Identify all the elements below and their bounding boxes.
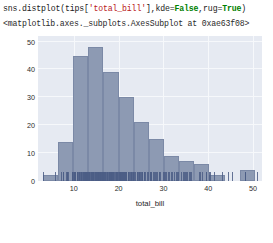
x-tick-label: 50: [249, 184, 257, 193]
x-tick-label: 20: [115, 184, 123, 193]
rug-tick: [55, 172, 56, 181]
code-token-0: sns.distplot(tips[: [3, 4, 89, 13]
rug-tick: [210, 172, 211, 181]
y-axis-ticks: 01020304050: [0, 36, 35, 181]
rug-plot: [38, 36, 262, 181]
x-axis-ticks: 1020304050: [38, 184, 262, 196]
rug-tick: [202, 172, 203, 181]
rug-tick: [63, 172, 64, 181]
rug-tick: [206, 172, 207, 181]
y-tick-label: 40: [1, 65, 35, 74]
y-tick-label: 30: [1, 93, 35, 102]
code-token-2: ],kde=: [146, 4, 175, 13]
x-axis-label: total_bill: [38, 199, 262, 208]
rug-tick: [160, 172, 161, 181]
y-tick-label: 0: [1, 177, 35, 186]
rug-tick: [257, 172, 258, 181]
rug-tick: [145, 172, 146, 181]
rug-tick: [43, 172, 44, 181]
rug-tick: [214, 172, 215, 181]
y-tick-label: 20: [1, 121, 35, 130]
code-token-3: False: [175, 4, 199, 13]
x-tick-label: 40: [204, 184, 212, 193]
x-tick-label: 10: [70, 184, 78, 193]
y-tick-label: 10: [1, 149, 35, 158]
rug-tick: [191, 172, 192, 181]
rug-tick: [178, 172, 179, 181]
histogram-figure: 01020304050 1020304050 total_bill: [0, 29, 273, 222]
rug-tick: [222, 172, 223, 181]
rug-tick: [166, 172, 167, 181]
x-tick-label: 30: [159, 184, 167, 193]
rug-tick: [200, 172, 201, 181]
rug-tick: [68, 172, 69, 181]
notebook-code-line[interactable]: sns.distplot(tips['total_bill'],kde=Fals…: [0, 0, 273, 14]
notebook-output-text: <matplotlib.axes._subplots.AxesSubplot a…: [0, 14, 273, 29]
code-token-1: 'total_bill': [89, 4, 146, 13]
rug-tick: [187, 172, 188, 181]
y-tick-label: 50: [1, 37, 35, 46]
code-token-5: True: [222, 4, 241, 13]
rug-tick: [245, 172, 246, 181]
code-token-6: ): [241, 4, 246, 13]
rug-tick: [232, 172, 233, 181]
plot-area: [38, 36, 262, 181]
rug-tick: [228, 172, 229, 181]
code-token-4: ,rug=: [198, 4, 222, 13]
